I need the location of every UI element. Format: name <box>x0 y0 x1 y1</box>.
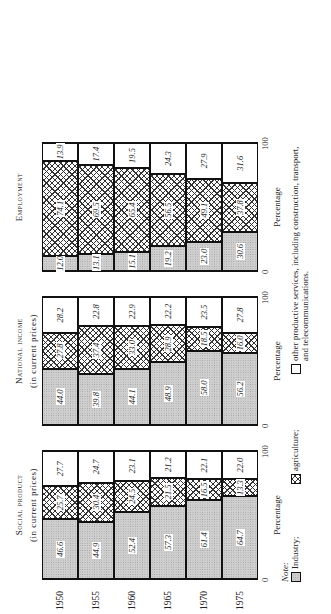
year-label: 1965 <box>150 591 186 610</box>
value-label: 27.7 <box>56 460 65 477</box>
bar-row: 58.018.523.5 <box>186 297 222 425</box>
bar-segment-agr: 37.4 <box>78 326 114 374</box>
bar-segment-agr: 16.5 <box>186 479 222 500</box>
bar-segment-agr: 25.7 <box>42 486 78 519</box>
value-label: 24.3 <box>164 150 173 167</box>
value-label: 39.8 <box>92 391 101 408</box>
bar-row: 48.928.922.2 <box>150 297 186 425</box>
value-label: 48.9 <box>164 385 173 402</box>
value-label: 13.1 <box>92 254 101 271</box>
bar-segment-ind: 19.2 <box>150 246 186 271</box>
bar-segment-ind: 44.9 <box>78 522 114 579</box>
legend-item-oth: other productive services, including con… <box>290 144 310 374</box>
value-label: 56.2 <box>236 381 245 398</box>
bar-segment-oth: 22.8 <box>78 297 114 326</box>
bar-segment-ind: 15.1 <box>114 252 150 271</box>
value-label: 22.9 <box>128 303 137 320</box>
bar-segment-ind: 30.6 <box>222 232 258 271</box>
legend-swatch <box>291 364 301 374</box>
bar-segment-agr: 30.4 <box>78 483 114 522</box>
value-label: 19.5 <box>128 147 137 164</box>
bar-segment-ind: 39.8 <box>78 374 114 425</box>
value-label: 30.6 <box>236 243 245 260</box>
bar-row: 44.027.828.2 <box>42 297 78 425</box>
bar-segment-oth: 23.1 <box>114 451 150 481</box>
bar-segment-agr: 74.1 <box>42 161 78 256</box>
value-label: 18.5 <box>200 331 209 348</box>
bar-segment-oth: 22.2 <box>150 297 186 325</box>
value-label: 30.4 <box>92 494 101 511</box>
bar-row: 64.713.322.0 <box>222 451 258 579</box>
bar-segment-agr: 49.1 <box>186 179 222 242</box>
bar-segment-agr: 33.0 <box>114 326 150 368</box>
value-label: 52.4 <box>128 537 137 554</box>
bar-segment-oth: 27.8 <box>222 297 258 333</box>
bar-segment-oth: 24.7 <box>78 451 114 483</box>
value-label: 37.4 <box>92 342 101 359</box>
bar-row: 19.256.524.3 <box>150 143 186 271</box>
value-label: 58.0 <box>200 379 209 396</box>
value-label: 65.4 <box>128 201 137 218</box>
value-label: 69.5 <box>92 201 101 218</box>
value-label: 37.8 <box>236 199 245 216</box>
bar-row: 15.165.419.5 <box>114 143 150 271</box>
value-label: 22.2 <box>164 303 173 320</box>
x-axis-label: Percentage <box>272 142 282 272</box>
bar-segment-ind: 44.0 <box>42 369 78 425</box>
bar-segment-oth: 22.9 <box>114 297 150 326</box>
bar-segment-oth: 22.1 <box>186 451 222 479</box>
bar-segment-ind: 56.2 <box>222 353 258 425</box>
value-label: 16.5 <box>200 481 209 498</box>
bar-segment-agr: 21.5 <box>150 478 186 506</box>
value-label: 13.9 <box>56 143 65 160</box>
bar-row: 39.837.422.8 <box>78 297 114 425</box>
value-label: 21.2 <box>164 456 173 473</box>
plot-area: 44.027.828.239.837.422.844.133.022.948.9… <box>42 296 258 426</box>
value-label: 22.8 <box>92 303 101 320</box>
panel-title: National income(in current prices) <box>12 276 40 426</box>
value-label: 24.7 <box>92 458 101 475</box>
value-label: 16.0 <box>236 334 245 351</box>
bar-segment-agr: 24.5 <box>114 481 150 512</box>
bar-row: 44.133.022.9 <box>114 297 150 425</box>
year-label: 1960 <box>114 591 150 610</box>
bar-row: 57.321.521.2 <box>150 451 186 579</box>
legend-label: other productive services, including con… <box>290 144 310 361</box>
bar-segment-ind: 58.0 <box>186 351 222 425</box>
plot-area: 12.074.113.913.169.517.415.165.419.519.2… <box>42 142 258 272</box>
bar-row: 61.416.522.1 <box>186 451 222 579</box>
bar-segment-oth: 17.4 <box>78 143 114 165</box>
value-label: 17.4 <box>92 146 101 163</box>
bar-segment-oth: 27.9 <box>186 143 222 179</box>
bar-segment-oth: 28.2 <box>42 297 78 333</box>
value-label: 44.0 <box>56 388 65 405</box>
legend-label: agriculture; <box>290 430 300 471</box>
bar-segment-ind: 46.6 <box>42 519 78 579</box>
value-label: 61.4 <box>200 531 209 548</box>
value-label: 13.3 <box>236 479 245 496</box>
bar-row: 30.637.831.6 <box>222 143 258 271</box>
bar-row: 23.049.127.9 <box>186 143 222 271</box>
chart-stage: 195019551960196519701975 Social product(… <box>0 0 331 614</box>
value-label: 44.1 <box>128 388 137 405</box>
x-axis-label: Percentage <box>272 450 282 580</box>
value-label: 46.6 <box>56 541 65 558</box>
year-label: 1970 <box>186 591 222 610</box>
panel-title: Social product(in current prices) <box>12 430 40 580</box>
value-label: 22.0 <box>236 457 245 474</box>
bar-segment-agr: 16.0 <box>222 333 258 353</box>
bar-row: 56.216.027.8 <box>222 297 258 425</box>
value-label: 31.6 <box>236 155 245 172</box>
value-label: 28.2 <box>56 307 65 324</box>
bar-row: 44.930.424.7 <box>78 451 114 579</box>
legend-swatch <box>291 572 301 582</box>
value-label: 21.5 <box>164 483 173 500</box>
value-label: 27.8 <box>56 342 65 359</box>
value-label: 49.1 <box>200 202 209 219</box>
bar-row: 12.074.113.9 <box>42 143 78 271</box>
bar-segment-agr: 27.8 <box>42 333 78 369</box>
bar-segment-ind: 23.0 <box>186 242 222 271</box>
value-label: 23.5 <box>200 304 209 321</box>
bar-segment-ind: 52.4 <box>114 512 150 579</box>
bar-segment-agr: 18.5 <box>186 327 222 351</box>
